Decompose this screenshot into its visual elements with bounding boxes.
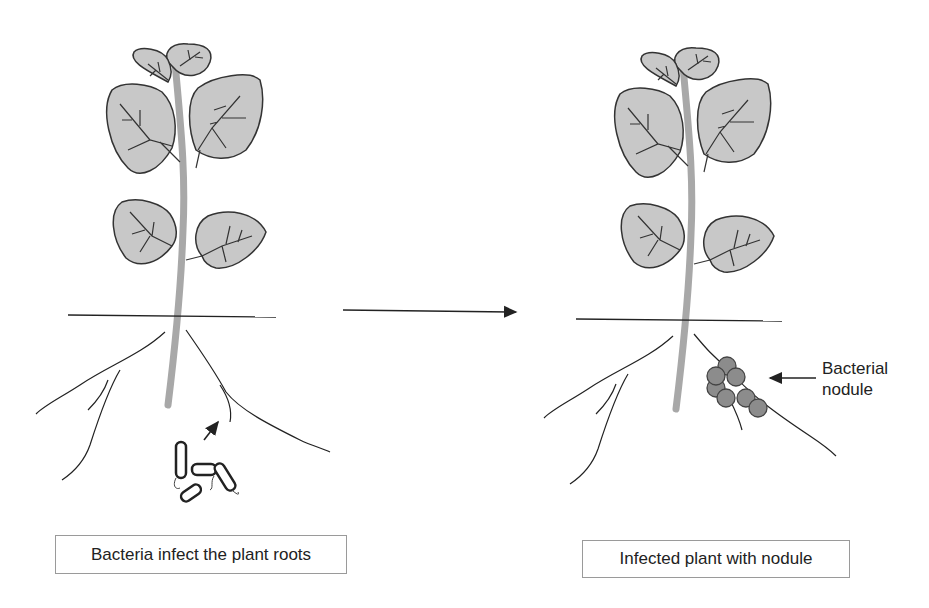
- nodule-label-line2: nodule: [822, 379, 888, 400]
- soil-line: [576, 319, 782, 321]
- arrow-to-root-icon: [204, 422, 218, 440]
- left-caption: Bacteria infect the plant roots: [55, 535, 347, 574]
- bacterium-icon: [192, 464, 216, 475]
- bacterium-icon: [179, 483, 203, 504]
- roots: [544, 334, 836, 484]
- right-caption: Infected plant with nodule: [582, 540, 850, 578]
- diagram-canvas: [0, 0, 929, 608]
- nodule-label-line1: Bacterial: [822, 358, 888, 379]
- soil-line: [68, 315, 276, 317]
- bacteria-group: [174, 422, 238, 503]
- process-arrow-icon: [343, 310, 516, 312]
- left-plant: [36, 44, 330, 504]
- bacterium-icon: [213, 462, 237, 493]
- nodule-label: Bacterial nodule: [822, 358, 888, 400]
- bacterium-icon: [176, 442, 186, 478]
- right-plant: [544, 48, 836, 484]
- nodule-cluster: [707, 357, 767, 417]
